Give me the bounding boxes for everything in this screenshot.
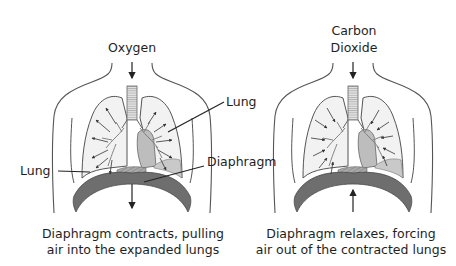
inhale-caption-line2: air into the expanded lungs xyxy=(42,242,224,258)
exhale-figure xyxy=(274,62,433,213)
carbon-dioxide-label-line1: Carbon xyxy=(331,23,376,38)
lung-label-right: Lung xyxy=(226,94,257,109)
inhale-caption: Diaphragm contracts, pulling air into th… xyxy=(42,226,224,258)
lung-label-left: Lung xyxy=(20,163,51,178)
lung-right-leader xyxy=(168,102,224,132)
exhale-caption-line1: Diaphragm relaxes, forcing xyxy=(256,226,446,242)
carbon-dioxide-label-line2: Dioxide xyxy=(331,40,378,55)
exhale-caption: Diaphragm relaxes, forcing air out of th… xyxy=(256,226,446,258)
exhale-caption-line2: air out of the contracted lungs xyxy=(256,242,446,258)
oxygen-label: Oxygen xyxy=(108,40,156,55)
inhale-figure xyxy=(53,62,212,213)
diaphragm-label: Diaphragm xyxy=(207,154,277,169)
inhale-caption-line1: Diaphragm contracts, pulling xyxy=(42,226,224,242)
